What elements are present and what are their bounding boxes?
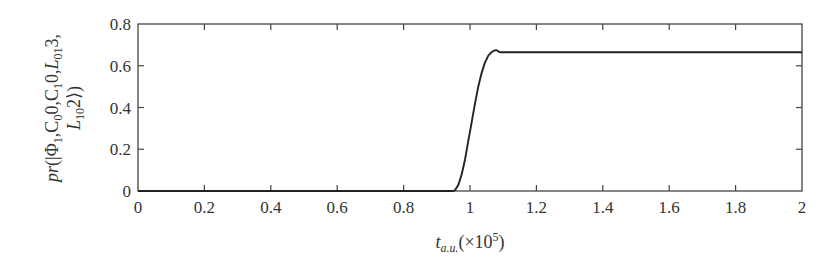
x-tick-label: 0.6 (327, 198, 348, 217)
series-layer (138, 50, 802, 191)
x-tick-label: 0.4 (260, 198, 282, 217)
y-axis-title: pr(|Φ1,C00,C10,L013, L102⟩) (42, 34, 87, 184)
x-tick-label: 0.2 (194, 198, 215, 217)
x-tick-label: 1.8 (725, 198, 746, 217)
y-tick-label: 0 (123, 182, 132, 201)
x-tick-label: 1.2 (526, 198, 547, 217)
axes-box (138, 24, 802, 191)
y-tick-label: 0.8 (110, 15, 131, 34)
y-axis-ticks: 00.20.40.60.8 (110, 15, 802, 201)
y-tick-label: 0.6 (110, 57, 131, 76)
plot-frame (138, 24, 802, 191)
x-tick-label: 0 (134, 198, 143, 217)
x-tick-label: 1.6 (659, 198, 680, 217)
y-tick-label: 0.4 (110, 99, 132, 118)
svg-text:pr(|Φ1,C00,C10,L013,: pr(|Φ1,C00,C10,L013, (42, 34, 65, 184)
x-axis-title: ta.u.(×105) (435, 230, 504, 255)
x-tick-label: 1 (466, 198, 475, 217)
x-tick-label: 2 (798, 198, 807, 217)
x-tick-label: 1.4 (592, 198, 614, 217)
y-tick-label: 0.2 (110, 140, 131, 159)
series-line-probability (138, 50, 802, 191)
x-tick-label: 0.8 (393, 198, 414, 217)
line-chart: 00.20.40.60.811.21.41.61.82 00.20.40.60.… (0, 0, 836, 261)
svg-text:L102⟩): L102⟩) (64, 86, 87, 131)
